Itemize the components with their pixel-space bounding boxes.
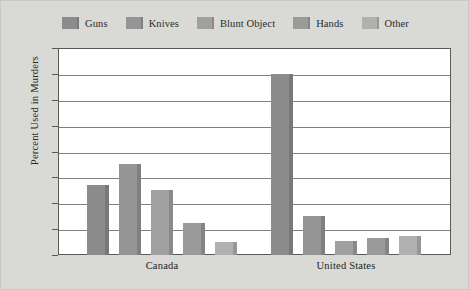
- legend-item-hands: Hands: [293, 17, 343, 29]
- legend-item-other: Other: [362, 17, 409, 29]
- y-tick-mark-0: [52, 255, 58, 256]
- y-tick-mark-80: [52, 48, 58, 49]
- gridline-60: [59, 101, 450, 102]
- y-tick-mark-50: [52, 126, 58, 127]
- gridline-10: [59, 230, 450, 231]
- legend-swatch-guns: [62, 17, 79, 29]
- legend-label-knives: Knives: [149, 18, 179, 29]
- legend-item-blunt-object: Blunt Object: [197, 17, 275, 29]
- gridline-30: [59, 178, 450, 179]
- gridline-40: [59, 153, 450, 154]
- y-tick-mark-20: [52, 203, 58, 204]
- y-tick-mark-40: [52, 152, 58, 153]
- legend-label-blunt-object: Blunt Object: [220, 18, 275, 29]
- y-tick-mark-10: [52, 229, 58, 230]
- legend-item-guns: Guns: [62, 17, 108, 29]
- legend-label-other: Other: [385, 18, 409, 29]
- legend-label-guns: Guns: [85, 18, 108, 29]
- gridline-20: [59, 204, 450, 205]
- legend-label-hands: Hands: [316, 18, 343, 29]
- x-tick-label-canada: Canada: [146, 260, 179, 271]
- y-tick-mark-30: [52, 177, 58, 178]
- gridline-70: [59, 75, 450, 76]
- chart-figure: Guns Knives Blunt Object Hands Other Per…: [0, 0, 469, 290]
- legend-swatch-hands: [293, 17, 310, 29]
- y-tick-mark-70: [52, 74, 58, 75]
- chart-legend: Guns Knives Blunt Object Hands Other: [1, 14, 469, 32]
- x-tick-label-united-states: United States: [317, 260, 376, 271]
- y-tick-mark-60: [52, 100, 58, 101]
- legend-item-knives: Knives: [126, 17, 179, 29]
- gridline-50: [59, 127, 450, 128]
- legend-swatch-other: [362, 17, 379, 29]
- y-axis-title: Percent Used in Murders: [29, 31, 40, 191]
- legend-swatch-blunt-object: [197, 17, 214, 29]
- legend-swatch-knives: [126, 17, 143, 29]
- plot-area: [58, 48, 451, 255]
